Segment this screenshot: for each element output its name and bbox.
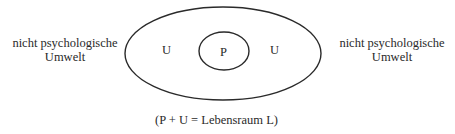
person-label: P	[220, 45, 227, 59]
right-label-line1: nicht psychologische	[332, 36, 452, 50]
left-label-line2: Umwelt	[5, 50, 125, 64]
life-space-diagram: nicht psychologische Umwelt nicht psycho…	[0, 0, 455, 134]
equation-caption: (P + U = Lebensraum L)	[155, 113, 278, 127]
right-label-line2: Umwelt	[332, 50, 452, 64]
umwelt-label-right: U	[270, 43, 279, 57]
umwelt-label-left: U	[162, 43, 171, 57]
left-label-line1: nicht psychologische	[5, 36, 125, 50]
right-nonpsychological-environment-label: nicht psychologische Umwelt	[332, 36, 452, 64]
left-nonpsychological-environment-label: nicht psychologische Umwelt	[5, 36, 125, 64]
